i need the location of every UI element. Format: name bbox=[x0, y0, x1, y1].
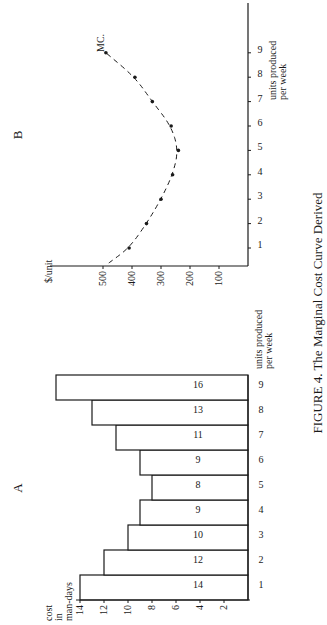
y-tick-label: 400 bbox=[126, 271, 137, 286]
y-tick-label: 2 bbox=[218, 605, 229, 610]
bar-8 bbox=[92, 400, 248, 425]
y-tick-label: 14 bbox=[74, 605, 85, 615]
mc-curve bbox=[106, 53, 177, 263]
bar-value-label: 9 bbox=[196, 504, 201, 515]
x-tick-label: 6 bbox=[259, 454, 264, 465]
x-tick-label: 5 bbox=[258, 141, 263, 152]
figure-canvas: A cost in man-days 141210989111316 24681… bbox=[0, 0, 327, 625]
y-tick-label: 6 bbox=[170, 605, 181, 610]
mc-points bbox=[104, 51, 180, 250]
figure-svg: A cost in man-days 141210989111316 24681… bbox=[0, 0, 327, 625]
panel-b-title: B bbox=[10, 130, 25, 139]
panel-a-ylabel-line3: man-days bbox=[63, 582, 74, 621]
bar-1 bbox=[80, 575, 248, 600]
x-tick-label: 3 bbox=[258, 190, 263, 201]
bar-value-label: 16 bbox=[193, 379, 203, 390]
bar-2 bbox=[104, 550, 248, 575]
bar-value-label: 11 bbox=[193, 429, 203, 440]
panel-b-axes: 100200300400500123456789 bbox=[50, 3, 263, 286]
panel-a-bars: 141210989111316 bbox=[56, 375, 248, 600]
panel-a-xlabel-line2: per week bbox=[263, 333, 274, 369]
x-tick-label: 8 bbox=[259, 404, 264, 415]
bar-6 bbox=[140, 450, 248, 475]
y-tick-label: 200 bbox=[184, 271, 195, 286]
bar-value-label: 12 bbox=[193, 554, 203, 565]
bar-3 bbox=[128, 525, 248, 550]
y-tick-label: 10 bbox=[122, 605, 133, 615]
x-tick-label: 6 bbox=[258, 117, 263, 128]
y-tick-label: 500 bbox=[97, 271, 108, 286]
x-tick-label: 7 bbox=[259, 429, 264, 440]
mc-point-1 bbox=[127, 246, 131, 250]
y-tick-label: 4 bbox=[194, 605, 205, 610]
x-tick-label: 1 bbox=[259, 579, 264, 590]
mc-point-8 bbox=[133, 75, 137, 79]
x-tick-label: 8 bbox=[258, 68, 263, 79]
panel-b-ylabel: $/unit bbox=[43, 259, 54, 283]
x-tick-label: 9 bbox=[259, 379, 264, 390]
x-tick-label: 9 bbox=[258, 44, 263, 55]
bar-value-label: 10 bbox=[193, 529, 203, 540]
bar-value-label: 9 bbox=[196, 454, 201, 465]
mc-point-6 bbox=[169, 124, 173, 128]
figure-caption: FIGURE 4. The Marginal Cost Curve Derive… bbox=[310, 192, 325, 434]
mc-point-3 bbox=[159, 197, 163, 201]
bar-value-label: 14 bbox=[193, 579, 203, 590]
bar-9 bbox=[56, 375, 248, 400]
mc-series-label: MC. bbox=[95, 34, 106, 52]
x-tick-label: 4 bbox=[258, 166, 263, 177]
bar-7 bbox=[116, 425, 248, 450]
x-tick-label: 2 bbox=[258, 215, 263, 226]
panel-b-xlabel-line2: per week bbox=[277, 64, 288, 100]
x-tick-label: 2 bbox=[259, 554, 264, 565]
mc-point-7 bbox=[151, 100, 155, 104]
bar-value-label: 13 bbox=[193, 404, 203, 415]
x-tick-label: 4 bbox=[259, 504, 264, 515]
panel-a-title: A bbox=[10, 483, 25, 493]
bar-value-label: 8 bbox=[196, 479, 201, 490]
y-tick-label: 8 bbox=[146, 605, 157, 610]
x-tick-label: 1 bbox=[258, 239, 263, 250]
x-tick-label: 7 bbox=[258, 93, 263, 104]
panel-a-bar-chart: A cost in man-days 141210989111316 24681… bbox=[10, 310, 274, 621]
y-tick-label: 12 bbox=[98, 605, 109, 615]
mc-point-5 bbox=[177, 149, 181, 153]
y-tick-label: 100 bbox=[213, 271, 224, 286]
x-tick-label: 5 bbox=[259, 479, 264, 490]
panel-b-mc-chart: B $/unit 100200300400500123456789 MC. un… bbox=[10, 3, 288, 286]
y-tick-label: 300 bbox=[155, 271, 166, 286]
bar-4 bbox=[140, 500, 248, 525]
x-tick-label: 3 bbox=[259, 529, 264, 540]
mc-point-4 bbox=[171, 173, 175, 177]
mc-point-2 bbox=[145, 222, 149, 226]
